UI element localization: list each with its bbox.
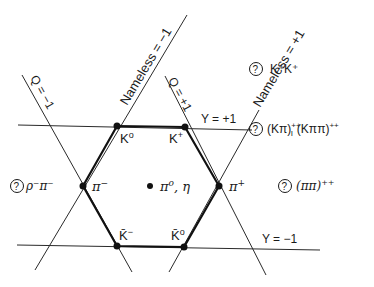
question-mark: ?	[253, 124, 259, 135]
exotic-pipi: ? (ππ)++	[279, 178, 335, 193]
exotic-pipi-label: (ππ)++	[296, 178, 335, 193]
piplus-label: π+	[228, 178, 245, 194]
piminus-dot	[80, 183, 87, 190]
question-mark: ?	[14, 181, 20, 192]
piplus-dot	[216, 183, 223, 190]
kbar0-dot	[181, 244, 188, 251]
k0-label: Ko	[120, 130, 134, 146]
y-plus-one-label: Y = +1	[201, 112, 236, 126]
question-mark: ?	[253, 64, 259, 75]
exotic-kk: ? K⁺K⁺	[250, 62, 299, 76]
exotic-kpi: ? (Kπ)++I(Kππ)++	[250, 121, 340, 138]
k0-dot	[114, 123, 121, 130]
question-mark: ?	[282, 181, 288, 192]
meson-octet-diagram: Q = −1 Q = +1 Nameless = −1 Nameless = +…	[0, 0, 374, 287]
exotic-rhopi: ? ρ⁻π⁻	[11, 179, 54, 193]
kplus-label: K+	[169, 130, 183, 146]
y-minus-one-label: Y = −1	[262, 232, 297, 246]
exotic-rhopi-label: ρ⁻π⁻	[25, 179, 54, 193]
exotic-kpi-label: (Kπ)++I(Kππ)++	[267, 121, 339, 138]
pi0-eta-dot	[147, 183, 153, 189]
piminus-label: π−	[91, 178, 108, 194]
exotic-kk-label: K⁺K⁺	[270, 62, 298, 76]
kbarminus-label: K̄−	[119, 227, 133, 243]
q-plus-one-label: Q = +1	[165, 75, 195, 114]
nameless-minus-one-label: Nameless = −1	[117, 25, 175, 108]
pi0-eta-label: πo, η	[159, 178, 190, 194]
kbar0-label: K̄o	[171, 227, 185, 243]
nameless-minus-one-line	[35, 15, 187, 270]
kbarminus-dot	[114, 243, 121, 250]
